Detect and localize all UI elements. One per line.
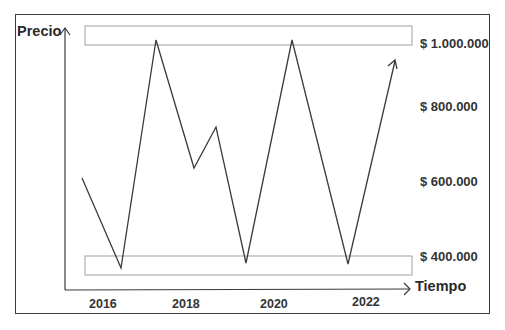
y-tick-label: $ 400.000	[420, 249, 478, 264]
y-axis-title: Precio	[17, 23, 61, 39]
y-tick-label: $ 600.000	[420, 174, 478, 189]
price-line	[82, 40, 395, 268]
x-tick-label: 2020	[260, 297, 288, 311]
y-tick-label: $ 1.000.000	[420, 36, 489, 51]
y-axis	[60, 28, 70, 290]
x-tick-label: 2022	[352, 295, 380, 309]
x-tick-label: 2018	[172, 297, 200, 311]
x-axis-title: Tiempo	[415, 278, 466, 294]
resistance-band	[85, 26, 412, 45]
x-tick-label: 2016	[89, 297, 117, 311]
support-band	[85, 256, 412, 275]
price-line-arrow-icon	[388, 60, 397, 69]
x-axis	[65, 283, 410, 295]
y-tick-label: $ 800.000	[420, 99, 478, 114]
